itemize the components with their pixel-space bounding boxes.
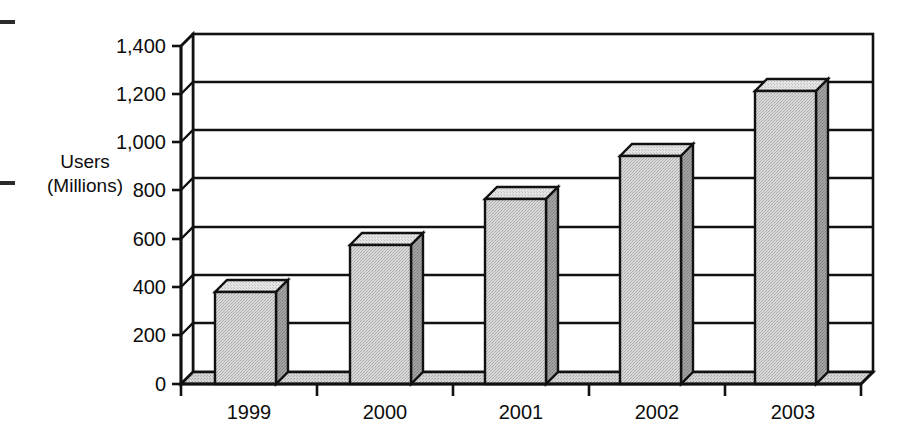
bar-2001[interactable] xyxy=(485,187,558,384)
chart-figure: 1,400 1,200 1,000 800 600 400 200 0 User… xyxy=(0,0,913,436)
y-axis-tick-labels: 1,400 1,200 1,000 800 600 400 200 0 xyxy=(116,35,166,395)
y-tick-label-0: 0 xyxy=(155,373,166,395)
bar-2003[interactable] xyxy=(755,79,828,384)
bar-chart-canvas: 1,400 1,200 1,000 800 600 400 200 0 User… xyxy=(0,0,913,436)
bar-1999[interactable] xyxy=(215,280,288,384)
bar-2000[interactable] xyxy=(350,233,423,384)
crop-marks-group xyxy=(0,20,15,185)
bar-2000-side-face xyxy=(411,233,423,384)
y-tick-label-800: 800 xyxy=(133,179,166,201)
x-tick-label-2000: 2000 xyxy=(363,401,408,423)
bar-2000-front-face xyxy=(350,245,411,384)
crop-mark-top-left xyxy=(0,20,15,24)
x-tick-label-2003: 2003 xyxy=(771,401,816,423)
y-tick-label-1200: 1,200 xyxy=(116,83,166,105)
y-tick-label-200: 200 xyxy=(133,324,166,346)
y-axis-title-line1: Users xyxy=(60,151,110,172)
bar-2002-side-face xyxy=(681,144,693,384)
y-axis-title-line2: (Millions) xyxy=(47,175,123,196)
x-axis-tick-labels: 1999 2000 2001 2002 2003 xyxy=(227,401,816,423)
bar-1999-front-face xyxy=(215,292,276,384)
x-tick-label-2002: 2002 xyxy=(635,401,680,423)
bar-2003-side-face xyxy=(816,79,828,384)
y-tick-label-1400: 1,400 xyxy=(116,35,166,57)
x-axis-ticks xyxy=(181,384,725,396)
y-tick-label-400: 400 xyxy=(133,276,166,298)
y-axis-title: Users (Millions) xyxy=(47,151,123,196)
y-tick-label-1000: 1,000 xyxy=(116,131,166,153)
y-tick-label-600: 600 xyxy=(133,228,166,250)
bar-2001-side-face xyxy=(546,187,558,384)
bar-2002-front-face xyxy=(620,156,681,384)
bar-2002[interactable] xyxy=(620,144,693,384)
bar-1999-side-face xyxy=(276,280,288,384)
x-tick-label-1999: 1999 xyxy=(227,401,272,423)
bar-2003-front-face xyxy=(755,91,816,384)
bar-2001-front-face xyxy=(485,199,546,384)
x-tick-label-2001: 2001 xyxy=(499,401,544,423)
crop-mark-mid-left xyxy=(0,181,15,185)
